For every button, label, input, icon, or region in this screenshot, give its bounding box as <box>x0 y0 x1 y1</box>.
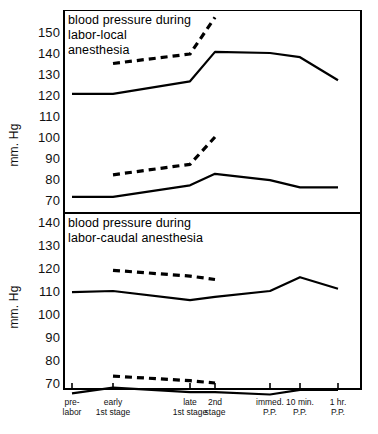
series-line-p0-1 <box>113 17 215 63</box>
series-line-p1-0 <box>72 277 338 300</box>
series-line-p0-2 <box>72 174 338 197</box>
figure-root: mm. Hg mm. Hg blood pressure during labo… <box>0 0 378 434</box>
plot-canvas <box>0 0 378 434</box>
panel-frame-1 <box>64 213 361 389</box>
top-mask <box>0 0 378 10</box>
series-line-p0-0 <box>72 52 338 94</box>
panel-frame-0 <box>64 10 361 213</box>
series-line-p1-3 <box>113 376 215 383</box>
series-line-p1-1 <box>113 270 215 279</box>
series-line-p0-3 <box>113 137 215 175</box>
